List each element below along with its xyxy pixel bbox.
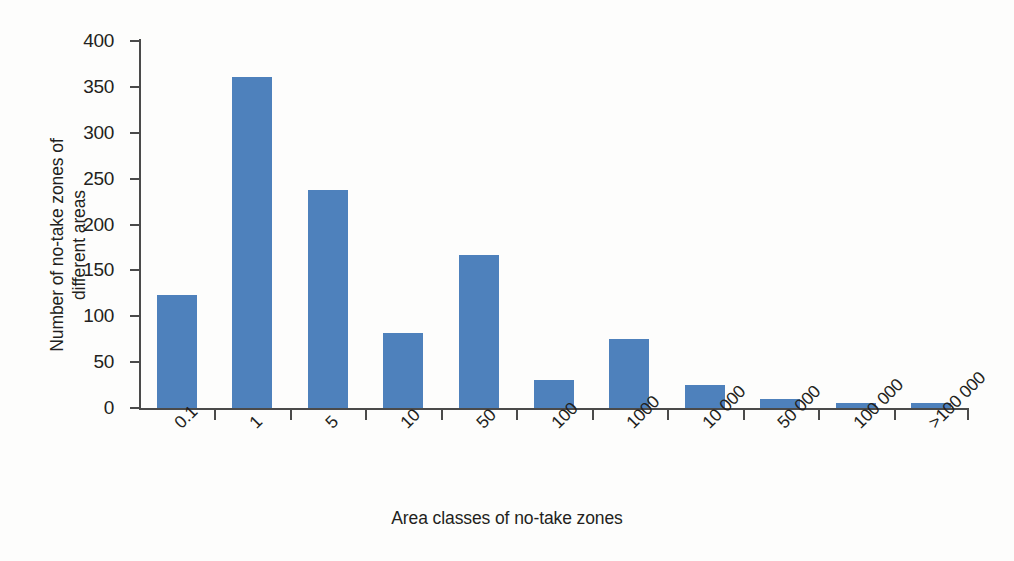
- y-tick-label: 350: [66, 77, 114, 96]
- bar-chart-figure: Number of no-take zones of different are…: [0, 0, 1014, 561]
- y-tick-mark: [130, 407, 139, 409]
- bar: [459, 255, 499, 408]
- y-tick-mark: [130, 178, 139, 180]
- bar: [157, 295, 197, 408]
- x-tick-label: 1: [246, 412, 265, 431]
- y-tick-mark: [130, 224, 139, 226]
- x-axis-title: Area classes of no-take zones: [0, 508, 1014, 529]
- plot-area: [139, 41, 969, 408]
- y-tick-mark: [130, 361, 139, 363]
- y-tick-mark: [130, 86, 139, 88]
- x-tick-label: 50: [473, 406, 499, 432]
- x-tick-label: 5: [322, 412, 341, 431]
- y-axis-line: [139, 39, 141, 410]
- bar: [383, 333, 423, 408]
- y-tick-label: 150: [66, 260, 114, 279]
- y-tick-label: 100: [66, 306, 114, 325]
- y-tick-label: 50: [66, 352, 114, 371]
- bar: [308, 190, 348, 408]
- y-tick-mark: [130, 315, 139, 317]
- bar: [232, 77, 272, 408]
- x-tick-label: 10: [397, 406, 423, 432]
- y-tick-mark: [130, 269, 139, 271]
- y-tick-mark: [130, 40, 139, 42]
- y-tick-label: 200: [66, 215, 114, 234]
- y-tick-label: 0: [66, 398, 114, 417]
- y-tick-label: 400: [66, 31, 114, 50]
- y-tick-label: 300: [66, 123, 114, 142]
- y-tick-label: 250: [66, 169, 114, 188]
- y-axis-tick-labels: 050100150200250300350400: [58, 0, 114, 561]
- y-tick-mark: [130, 132, 139, 134]
- x-axis-title-text: Area classes of no-take zones: [391, 508, 623, 528]
